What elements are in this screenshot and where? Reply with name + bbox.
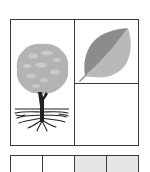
bottom-strip [10, 155, 139, 172]
strip-cell-2 [43, 156, 75, 172]
diagram-frame [10, 19, 139, 146]
tree-panel [11, 20, 75, 145]
leaf-panel [75, 20, 138, 84]
tree-roots [15, 112, 68, 131]
tree-with-roots-icon [11, 20, 74, 145]
strip-cell-4 [107, 156, 138, 172]
leaf-icon [75, 20, 138, 83]
tree-crown [17, 44, 69, 94]
tree-trunk [38, 92, 48, 122]
strip-cell-3 [75, 156, 107, 172]
empty-panel [75, 84, 138, 145]
leaf-stem [80, 75, 86, 81]
strip-cell-1 [11, 156, 43, 172]
